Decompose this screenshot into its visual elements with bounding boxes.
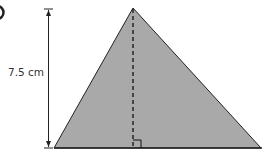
question-number-marker — [0, 6, 4, 19]
height-label: 7.5 cm — [8, 66, 44, 78]
triangle-shape — [54, 8, 261, 148]
height-dimension-arrow — [44, 9, 53, 148]
triangle-diagram — [0, 0, 265, 157]
